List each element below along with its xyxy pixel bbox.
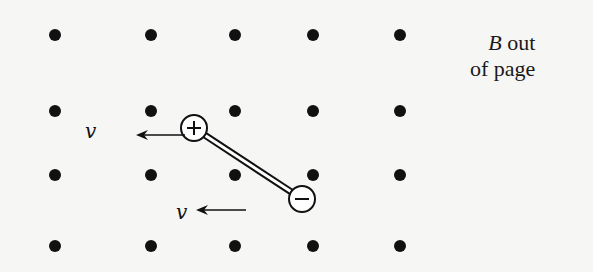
velocity-arrow: v — [176, 200, 246, 224]
field-label-line1: B out — [470, 30, 535, 56]
field-label-line2: of page — [470, 56, 535, 82]
field-dot-icon — [145, 240, 157, 252]
negative-charge-icon — [289, 186, 315, 212]
field-dot-icon — [49, 105, 61, 117]
field-symbol: B — [488, 30, 501, 55]
dipole-rod — [205, 135, 291, 192]
field-dot-icon — [307, 29, 319, 41]
field-dot-icon — [229, 169, 241, 181]
field-dot-icon — [394, 105, 406, 117]
field-dot-icon — [229, 29, 241, 41]
field-label-out: out — [502, 30, 536, 55]
velocity-label: v — [85, 119, 97, 143]
velocity-label: v — [176, 200, 188, 224]
field-dot-icon — [229, 105, 241, 117]
velocity-arrows: vv — [85, 119, 246, 224]
field-dot-icon — [49, 240, 61, 252]
field-dot-icon — [49, 169, 61, 181]
field-dot-icon — [307, 169, 319, 181]
field-dot-icon — [49, 29, 61, 41]
field-label: B out of page — [470, 30, 535, 82]
field-dot-icon — [145, 29, 157, 41]
positive-charge-icon — [181, 115, 207, 141]
field-dot-icon — [229, 240, 241, 252]
field-dot-icon — [394, 29, 406, 41]
field-dot-icon — [307, 105, 319, 117]
field-dot-grid — [49, 29, 406, 252]
field-dot-icon — [394, 240, 406, 252]
field-dot-icon — [145, 169, 157, 181]
field-dot-icon — [145, 105, 157, 117]
field-dot-icon — [307, 240, 319, 252]
magnetic-field-diagram: vv B out of page — [0, 0, 593, 272]
field-dot-icon — [394, 169, 406, 181]
velocity-arrow: v — [85, 119, 185, 143]
